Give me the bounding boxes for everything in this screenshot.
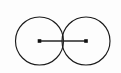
figure-background (0, 0, 121, 73)
two-circles-diagram (0, 0, 121, 73)
right-center-point (84, 39, 88, 43)
geometry-figure-canvas (0, 0, 121, 73)
left-center-point (38, 39, 42, 43)
